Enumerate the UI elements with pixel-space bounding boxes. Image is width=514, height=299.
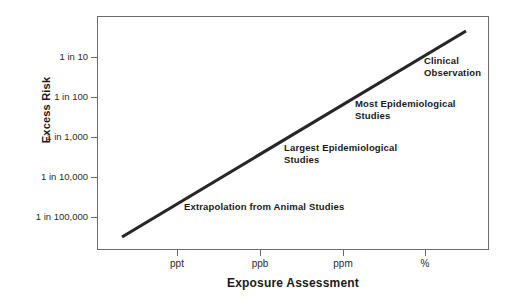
x-axis-title: Exposure Assessment [97,276,489,290]
annotation-extrapolation: Extrapolation from Animal Studies [184,201,344,213]
y-tick-label: 1 in 100,000 [36,211,88,222]
x-tick-label: ppm [313,258,373,269]
x-tick-mark [177,250,178,256]
x-tick-label: % [395,258,455,269]
y-tick-mark [91,57,97,58]
plot-area [97,16,489,250]
y-tick-label: 1 in 10 [59,51,88,62]
y-tick-label: 1 in 10,000 [41,171,88,182]
risk-exposure-chart: Excess Risk 1 in 10 1 in 100 1 in 1,000 … [0,0,514,299]
y-tick-label: 1 in 100 [54,91,88,102]
x-tick-mark [343,250,344,256]
y-tick-label: 1 in 1,000 [46,131,88,142]
y-tick-mark [91,177,97,178]
y-tick-mark [91,137,97,138]
annotation-largest-epidemiological-studies: Largest Epidemiological Studies [284,142,397,166]
x-tick-label: ppt [147,258,207,269]
x-tick-mark [425,250,426,256]
x-tick-mark [260,250,261,256]
annotation-clinical-observation: Clinical Observation [424,55,481,79]
annotation-most-epidemiological-studies: Most Epidemiological Studies [355,98,456,122]
y-tick-mark [91,97,97,98]
x-tick-label: ppb [230,258,290,269]
y-tick-mark [91,217,97,218]
y-axis-title: Excess Risk [40,50,52,170]
